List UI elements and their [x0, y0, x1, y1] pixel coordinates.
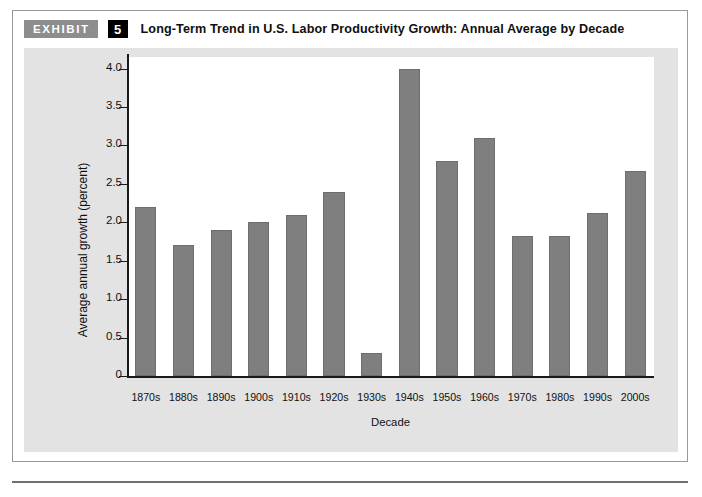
bar-1960s	[474, 138, 495, 376]
x-tick-label-1900s: 1900s	[244, 391, 273, 403]
y-tick-label: 0	[116, 368, 122, 380]
x-tick-label-1890s: 1890s	[207, 391, 236, 403]
page-title: Long-Term Trend in U.S. Labor Productivi…	[141, 22, 625, 36]
x-axis-title: Decade	[127, 416, 654, 428]
bar-1880s	[173, 245, 194, 376]
y-tick-label: 3.5	[106, 99, 122, 111]
y-tick-label: 1.0	[106, 291, 122, 303]
y-axis-title: Average annual growth (percent)	[76, 163, 90, 338]
x-tick-label-1940s: 1940s	[395, 391, 424, 403]
bar-1940s	[399, 69, 420, 376]
bar-1990s	[587, 213, 608, 376]
exhibit-number-badge: 5	[108, 20, 128, 38]
x-tick-label-1930s: 1930s	[357, 391, 386, 403]
x-tick-label-1960s: 1960s	[470, 391, 499, 403]
bar-1890s	[211, 230, 232, 376]
footer-rule	[12, 481, 688, 483]
y-tick-label: 1.5	[106, 253, 122, 265]
bar-1980s	[549, 236, 570, 376]
y-tick-label: 4.0	[106, 61, 122, 73]
x-tick-label-1870s: 1870s	[131, 391, 160, 403]
exhibit-card: EXHIBIT 5 Long-Term Trend in U.S. Labor …	[12, 10, 688, 462]
bar-1950s	[436, 161, 457, 376]
x-tick-label-1880s: 1880s	[169, 391, 198, 403]
x-tick-label-1980s: 1980s	[545, 391, 574, 403]
x-tick-label-1970s: 1970s	[508, 391, 537, 403]
bar-1930s	[361, 353, 382, 376]
bar-series	[127, 57, 654, 376]
bar-1970s	[512, 236, 533, 376]
bar-2000s	[625, 171, 646, 376]
x-tick-label-2000s: 2000s	[621, 391, 650, 403]
x-tick-label-1950s: 1950s	[433, 391, 462, 403]
plot-frame: 00.51.01.52.02.53.03.54.0 1870s1880s1890…	[127, 57, 654, 376]
exhibit-title-row: EXHIBIT 5 Long-Term Trend in U.S. Labor …	[13, 11, 687, 47]
chart-panel: Average annual growth (percent) 00.51.01…	[24, 48, 678, 452]
y-tick-label: 2.5	[106, 176, 122, 188]
bar-1870s	[135, 207, 156, 376]
y-tick-label: 0.5	[106, 330, 122, 342]
x-tick-label-1910s: 1910s	[282, 391, 311, 403]
exhibit-tag: EXHIBIT	[24, 20, 98, 38]
bar-1900s	[248, 222, 269, 376]
y-tick-label: 3.0	[106, 137, 122, 149]
bar-1910s	[286, 215, 307, 376]
bar-1920s	[323, 192, 344, 376]
x-tick-label-1920s: 1920s	[320, 391, 349, 403]
x-axis-line	[127, 376, 654, 378]
x-tick-label-1990s: 1990s	[583, 391, 612, 403]
y-tick-label: 2.0	[106, 214, 122, 226]
